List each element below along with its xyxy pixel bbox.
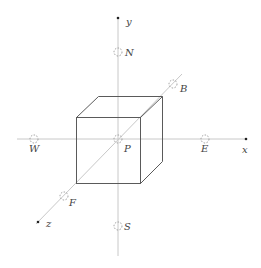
z-axis-arrow-dot xyxy=(37,221,40,224)
point-label-B: B xyxy=(179,83,187,94)
x-axis-label: x xyxy=(242,144,248,155)
point-label-F: F xyxy=(68,197,77,208)
y-axis-arrow-dot xyxy=(117,17,120,20)
cube-side-face xyxy=(141,97,163,184)
cube xyxy=(77,97,163,184)
point-marker-F[interactable] xyxy=(60,192,68,200)
diagram-canvas: y x z P N S E W B F xyxy=(0,0,261,268)
z-axis-label: z xyxy=(45,218,52,229)
cube-front-face xyxy=(77,118,141,184)
labels: y x z P N S E W B F xyxy=(29,16,248,232)
point-label-E: E xyxy=(200,143,209,154)
point-label-N: N xyxy=(124,47,135,58)
point-marker-B[interactable] xyxy=(169,80,177,88)
y-axis-label: y xyxy=(125,16,132,27)
point-label-W: W xyxy=(29,143,40,154)
point-label-P: P xyxy=(123,143,131,154)
x-axis-arrow-dot xyxy=(245,138,248,141)
point-label-S: S xyxy=(124,221,131,232)
